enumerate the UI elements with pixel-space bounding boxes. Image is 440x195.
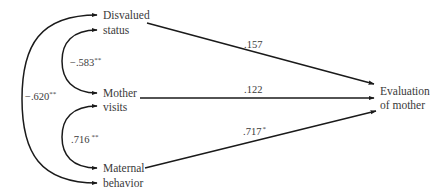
correlation-label-disvalued-mother: −.583** <box>70 56 102 68</box>
path-label-maternal: .717* <box>243 125 266 137</box>
svg-text:of mother: of mother <box>380 99 425 111</box>
path-arrow-maternal-to-evaluation <box>145 111 376 168</box>
correlation-label-disvalued-maternal: −.620** <box>25 90 57 102</box>
node-disvalued-status: Disvalued status <box>103 9 150 36</box>
path-label-disvalued: .157 <box>244 39 262 50</box>
node-maternal-behavior: Maternal behavior <box>103 162 145 189</box>
path-diagram: −.583** .716** −.620** Disvalued status … <box>0 0 440 195</box>
node-evaluation-of-mother: Evaluation of mother <box>380 85 430 111</box>
svg-text:behavior: behavior <box>103 177 143 189</box>
path-arrow-disvalued-to-evaluation <box>147 23 374 84</box>
svg-text:Mother: Mother <box>103 87 137 99</box>
svg-text:Maternal: Maternal <box>103 162 145 174</box>
node-mother-visits: Mother visits <box>103 87 137 113</box>
svg-text:status: status <box>103 24 130 36</box>
path-label-mother: .122 <box>244 84 262 95</box>
correlation-label-mother-maternal: .716** <box>71 133 99 145</box>
svg-text:Disvalued: Disvalued <box>103 9 150 21</box>
svg-text:Evaluation: Evaluation <box>380 85 430 97</box>
svg-text:visits: visits <box>103 101 128 113</box>
